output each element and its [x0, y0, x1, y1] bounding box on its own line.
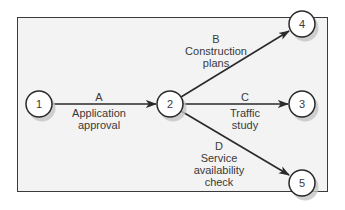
edge-b-letter: B [212, 34, 219, 45]
edge-b-arrow [181, 31, 289, 97]
network-diagram: 1 2 3 4 5 [0, 0, 345, 210]
node-5-label: 5 [299, 177, 305, 189]
edge-a-desc-line1: Application [72, 108, 126, 119]
edge-b-desc-line2: plans [203, 58, 229, 69]
edge-a-letter: A [95, 92, 102, 103]
node-2: 2 [157, 91, 183, 117]
edge-b-desc-line1: Construction [185, 46, 247, 57]
edge-d-desc-line1: Service [201, 153, 238, 164]
node-5: 5 [289, 170, 315, 196]
node-4-label: 4 [299, 18, 305, 30]
edge-d-letter: D [215, 141, 223, 152]
edge-c-desc-line1: Traffic [230, 108, 260, 119]
edge-a-desc-line2: approval [78, 120, 120, 131]
edge-c-desc-line2: study [232, 120, 258, 131]
edge-c-letter: C [241, 92, 249, 103]
node-3: 3 [289, 91, 315, 117]
node-3-label: 3 [299, 98, 305, 110]
edge-d-desc-line2: availability [194, 165, 245, 176]
node-2-label: 2 [167, 98, 173, 110]
node-1: 1 [26, 91, 52, 117]
node-1-label: 1 [36, 98, 42, 110]
node-4: 4 [289, 11, 315, 37]
edge-d-desc-line3: check [205, 177, 234, 188]
